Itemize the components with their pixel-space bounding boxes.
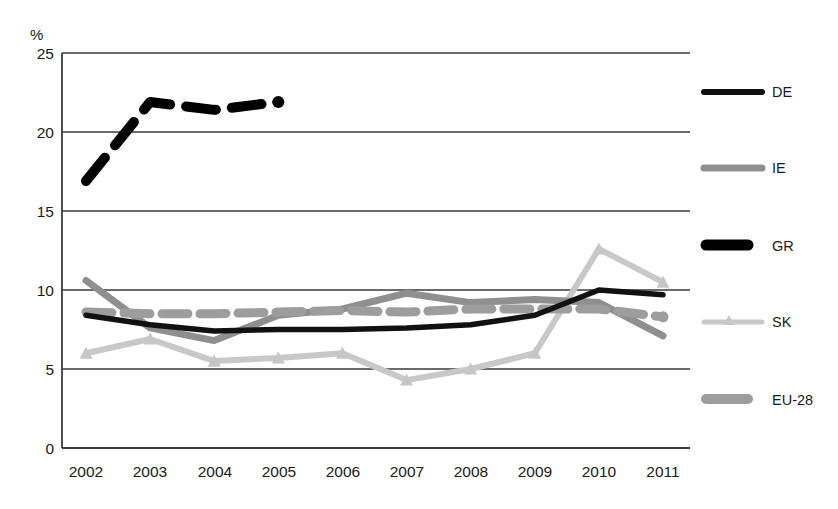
legend-item-ie[interactable]: IE bbox=[704, 160, 786, 176]
y-tick-5: 5 bbox=[45, 361, 54, 378]
y-tick-15: 15 bbox=[37, 203, 54, 220]
legend-label-gr: GR bbox=[772, 238, 794, 254]
y-axis-unit-label: % bbox=[30, 26, 43, 43]
legend-item-gr[interactable]: GR bbox=[706, 238, 794, 254]
y-tick-25: 25 bbox=[37, 45, 54, 62]
chart-container: % 25 20 15 10 5 0 2002 2003 2004 2005 20… bbox=[0, 0, 838, 509]
legend: DE IE GR SK EU-28 bbox=[704, 84, 813, 408]
legend-label-ie: IE bbox=[772, 160, 786, 176]
legend-label-sk: SK bbox=[772, 314, 792, 330]
y-tick-10: 10 bbox=[37, 282, 55, 299]
x-tick-2007: 2007 bbox=[390, 463, 424, 480]
x-tick-2006: 2006 bbox=[326, 463, 360, 480]
x-tick-2009: 2009 bbox=[518, 463, 552, 480]
legend-item-eu28[interactable]: EU-28 bbox=[706, 392, 813, 408]
x-tick-2008: 2008 bbox=[454, 463, 488, 480]
legend-label-eu28: EU-28 bbox=[772, 392, 813, 408]
y-tick-0: 0 bbox=[45, 440, 54, 457]
series-gr-end-marker bbox=[272, 96, 284, 108]
legend-label-de: DE bbox=[772, 84, 792, 100]
legend-item-de[interactable]: DE bbox=[704, 84, 792, 100]
x-tick-labels: 2002 2003 2004 2005 2006 2007 2008 2009 … bbox=[69, 463, 680, 480]
series-eu28-end-marker bbox=[658, 311, 669, 322]
y-tick-20: 20 bbox=[37, 124, 55, 141]
legend-item-sk[interactable]: SK bbox=[704, 314, 792, 330]
x-tick-2003: 2003 bbox=[133, 463, 167, 480]
y-tick-labels: 25 20 15 10 5 0 bbox=[37, 45, 55, 457]
x-tick-2002: 2002 bbox=[69, 463, 103, 480]
x-tick-2010: 2010 bbox=[582, 463, 617, 480]
line-chart: % 25 20 15 10 5 0 2002 2003 2004 2005 20… bbox=[0, 0, 838, 509]
x-tick-2005: 2005 bbox=[262, 463, 296, 480]
x-tick-2011: 2011 bbox=[646, 463, 679, 480]
x-tick-2004: 2004 bbox=[198, 463, 233, 480]
